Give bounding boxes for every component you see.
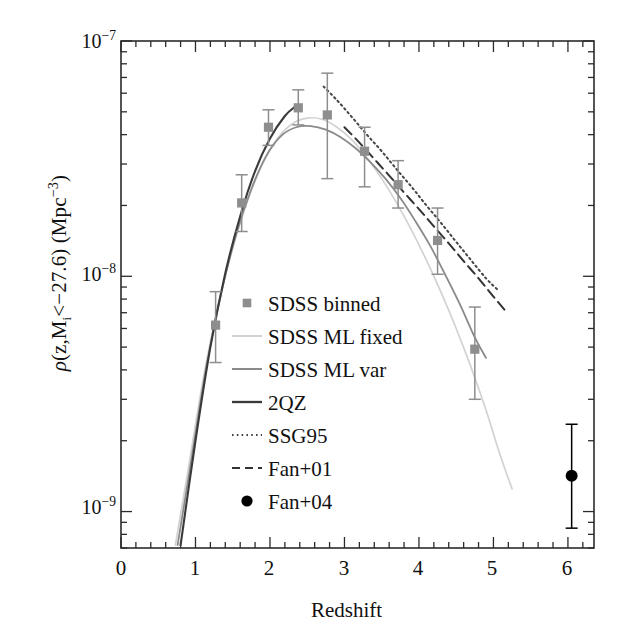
y-tick-label-1e-9: 10−9 <box>58 494 116 519</box>
legend-label-2qz: 2QZ <box>268 391 307 416</box>
legend-label-sdss-binned: SDSS binned <box>268 292 381 317</box>
legend-label-fan04: Fan+04 <box>268 490 332 515</box>
x-tick-label-1: 1 <box>175 556 215 581</box>
data-point-sdss-binned <box>262 110 274 146</box>
x-tick-label-6: 6 <box>547 556 587 581</box>
legend-label-ssg95: SSG95 <box>268 424 328 449</box>
figure-container: ρ(z,Mi<−27.6) (Mpc−3) 10−7 10−8 10−9 0 1… <box>0 0 625 634</box>
x-tick-label-4: 4 <box>398 556 438 581</box>
legend-label-sdss-ml-fixed: SDSS ML fixed <box>268 325 403 350</box>
y-tick-label-1e-8: 10−8 <box>58 261 116 286</box>
x-axis-label: Redshift <box>0 598 625 623</box>
x-tick-label-3: 3 <box>324 556 364 581</box>
data-point-sdss-binned <box>321 73 333 178</box>
x-tick-label-5: 5 <box>472 556 512 581</box>
x-tick-label-2: 2 <box>249 556 289 581</box>
legend-label-sdss-ml-var: SDSS ML var <box>268 358 386 383</box>
data-point-fan-04 <box>566 424 578 528</box>
data-points <box>210 73 578 528</box>
legend-markers <box>232 299 262 507</box>
plot-svg <box>0 0 625 634</box>
data-point-sdss-binned <box>469 307 481 399</box>
y-tick-label-1e-7: 10−7 <box>58 28 116 53</box>
legend-label-fan01: Fan+01 <box>268 457 332 482</box>
legend-marker-sdss-binned <box>243 299 252 308</box>
curve-ssg95 <box>324 87 498 290</box>
legend-marker-fan-04 <box>241 495 252 506</box>
x-tick-label-0: 0 <box>101 556 141 581</box>
data-point-sdss-binned <box>432 208 444 274</box>
